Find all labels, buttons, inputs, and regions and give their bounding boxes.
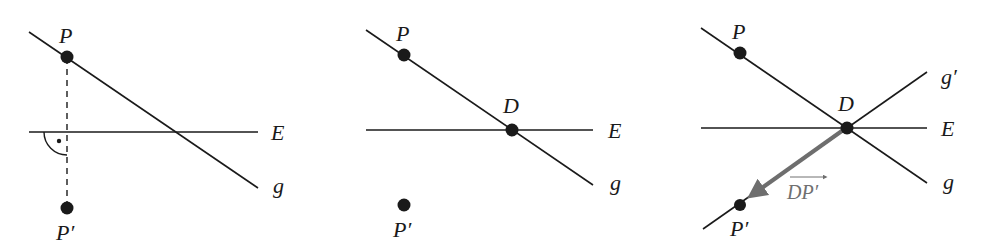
right-angle-dot	[57, 139, 61, 143]
label-g: g	[273, 173, 284, 198]
label-p: P	[395, 21, 409, 46]
point-p	[734, 47, 747, 60]
label-d: D	[837, 91, 854, 116]
label-p-prime: P′	[729, 216, 749, 241]
point-p	[61, 51, 74, 64]
label-e: E	[940, 116, 955, 141]
panel-2: P D E g P′	[366, 21, 622, 242]
point-p	[398, 49, 411, 62]
label-p-prime: P′	[392, 217, 412, 242]
panel-1: P E g P′	[29, 23, 285, 245]
label-e: E	[607, 118, 622, 143]
label-g: g	[943, 169, 954, 194]
right-angle-arc	[44, 132, 67, 155]
label-vector-dp-prime: DP′	[786, 181, 819, 203]
label-d: D	[502, 93, 519, 118]
label-g-prime: g′	[941, 64, 958, 89]
point-p-prime	[734, 199, 746, 211]
point-p-prime	[398, 199, 411, 212]
point-d	[506, 124, 519, 137]
panel-3: P D g′ E g DP′ P′	[701, 19, 958, 241]
label-p-prime: P′	[55, 220, 75, 245]
label-p: P	[731, 19, 745, 44]
point-d	[841, 122, 854, 135]
diagram-canvas: P E g P′ P D E g P′ P D g′ E g DP′ P′	[0, 0, 990, 252]
label-g: g	[610, 170, 621, 195]
label-e: E	[270, 120, 285, 145]
label-p: P	[58, 23, 72, 48]
point-p-prime	[61, 202, 74, 215]
